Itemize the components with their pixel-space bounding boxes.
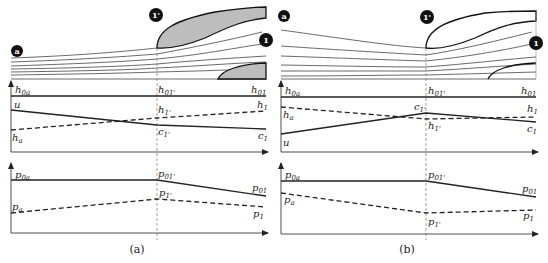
- station-1-label-b: 1: [533, 38, 539, 48]
- station-a-label-b: a: [281, 11, 286, 21]
- svg-text:h1': h1': [158, 104, 171, 117]
- p-static-line-a: [11, 199, 266, 213]
- station-a-label: a: [14, 46, 19, 56]
- station-1p-label-b: 1': [423, 12, 431, 22]
- station-1p-label: 1': [152, 10, 160, 20]
- svg-text:h01: h01: [251, 84, 266, 97]
- svg-text:h01': h01': [158, 84, 175, 97]
- svg-text:p01: p01: [252, 182, 267, 195]
- lower-lip-b: [488, 63, 536, 79]
- p0-line-b: [281, 181, 536, 197]
- svg-text:p01: p01: [522, 183, 537, 196]
- enthalpy-plot-b: [281, 81, 538, 152]
- svg-text:pa: pa: [284, 194, 295, 207]
- caption-a: (a): [129, 243, 144, 256]
- svg-text:h0a: h0a: [285, 85, 300, 98]
- pressure-plot-b: [281, 163, 538, 234]
- schematic-b: [281, 30, 536, 79]
- svg-text:p0a: p0a: [285, 169, 300, 182]
- upper-lip-a: [157, 7, 266, 48]
- svg-text:pa: pa: [12, 201, 23, 214]
- station-1-label: 1: [263, 35, 269, 45]
- enthalpy-plot-a: [11, 81, 268, 152]
- upper-lip-b: [426, 11, 536, 49]
- caption-b: (b): [399, 243, 415, 256]
- svg-text:p1': p1': [428, 216, 441, 229]
- svg-text:p1: p1: [523, 210, 534, 223]
- svg-text:h01: h01: [521, 85, 536, 98]
- u-line-b: [281, 113, 536, 134]
- svg-text:u: u: [14, 99, 20, 110]
- svg-text:ha: ha: [12, 132, 23, 145]
- h-static-line-b: [281, 107, 536, 119]
- svg-text:p01': p01': [428, 169, 445, 182]
- svg-text:p01': p01': [158, 168, 175, 181]
- svg-text:ha: ha: [283, 109, 294, 122]
- pressure-plot-a: [11, 163, 268, 233]
- p-static-line-b: [281, 193, 536, 213]
- svg-text:h1: h1: [257, 99, 268, 112]
- svg-text:c1': c1': [414, 101, 426, 114]
- svg-text:h1': h1': [428, 120, 441, 133]
- svg-text:c1: c1: [527, 123, 537, 136]
- svg-text:u: u: [283, 137, 289, 148]
- svg-text:c1': c1': [158, 126, 170, 139]
- svg-text:h01': h01': [428, 85, 445, 98]
- intake-flow-diagram: a 1' 1 h0a h01' h01 u ha h1' h1 c1' c1 p…: [0, 0, 548, 263]
- svg-text:p1': p1': [159, 187, 172, 200]
- p0-line-a: [11, 180, 266, 196]
- lower-lip-a: [218, 63, 266, 79]
- svg-text:c1: c1: [258, 130, 268, 143]
- panel-b: a 1' 1 h0a h01' h01 u ha h1' h1 c1' c1 p…: [278, 10, 543, 256]
- svg-text:p1: p1: [253, 208, 264, 221]
- panel-a: a 1' 1 h0a h01' h01 u ha h1' h1 c1' c1 p…: [11, 7, 273, 256]
- svg-text:h0a: h0a: [15, 84, 30, 97]
- svg-text:h1: h1: [527, 103, 538, 116]
